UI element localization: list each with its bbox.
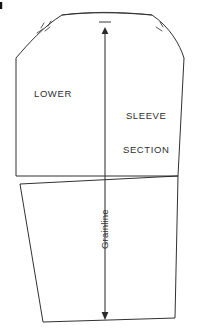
lower-piece-outline <box>20 176 178 322</box>
grainline-arrow-top <box>102 27 109 34</box>
notch-marks-left <box>37 21 51 33</box>
crop-edge-mark <box>0 2 2 9</box>
label-lower: LOWER <box>34 88 72 99</box>
label-sleeve-line-2: SECTION <box>123 144 169 155</box>
pattern-drawing <box>0 0 204 333</box>
label-sleeve-line-1: SLEEVE <box>123 110 169 121</box>
label-sleeve-section: SLEEVE SECTION <box>123 88 169 178</box>
pattern-diagram: LOWER SLEEVE SECTION Grainline <box>0 0 204 333</box>
grainline-arrow-bottom <box>102 312 109 320</box>
label-grainline: Grainline <box>99 209 110 249</box>
grainline-marking <box>99 22 111 320</box>
